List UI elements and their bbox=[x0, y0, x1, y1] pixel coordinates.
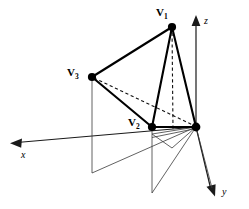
floor-edge-step bbox=[152, 134, 172, 148]
vertex-dot-v1 bbox=[168, 23, 176, 31]
edge-v3-v2 bbox=[92, 77, 152, 127]
figure-container: V1 V3 V2 x y z bbox=[0, 0, 249, 209]
edge-v1-v3 bbox=[92, 27, 172, 77]
axis-group bbox=[10, 15, 216, 197]
z-axis-arrowhead bbox=[192, 15, 201, 26]
axis-label-z: z bbox=[204, 16, 208, 26]
vertex-dot-v2 bbox=[148, 123, 156, 131]
vertex-dot-origin bbox=[192, 123, 201, 132]
dashed-v1-base bbox=[172, 27, 173, 129]
dashed-edges-group bbox=[94, 27, 195, 129]
axis-label-y: y bbox=[222, 187, 226, 197]
y-axis-arrowhead bbox=[207, 184, 216, 196]
vertex-label-v3-subscript: 3 bbox=[75, 72, 79, 81]
edge-v1-v2 bbox=[152, 27, 172, 127]
vertex-label-v3-letter: V bbox=[67, 66, 75, 78]
vertex-dot-v3 bbox=[88, 73, 96, 81]
tetrahedron-diagram bbox=[0, 0, 249, 209]
tetrahedron-edges-group bbox=[92, 27, 196, 127]
edge-v1-origin bbox=[172, 27, 196, 127]
dashed-v3-origin bbox=[94, 78, 195, 126]
vertex-label-v1-letter: V bbox=[156, 6, 164, 18]
x-axis-line bbox=[17, 127, 196, 143]
vertex-label-v1-subscript: 1 bbox=[164, 12, 168, 21]
axis-label-x: x bbox=[21, 150, 25, 160]
vertex-label-v2-letter: V bbox=[128, 116, 136, 128]
vertex-label-v1: V1 bbox=[156, 7, 168, 21]
vertex-label-v2-subscript: 2 bbox=[136, 122, 140, 131]
floor-ray-right bbox=[196, 127, 212, 188]
x-axis-arrowhead bbox=[10, 138, 22, 147]
vertex-label-v2: V2 bbox=[128, 117, 140, 131]
vertex-label-v3: V3 bbox=[67, 67, 79, 81]
